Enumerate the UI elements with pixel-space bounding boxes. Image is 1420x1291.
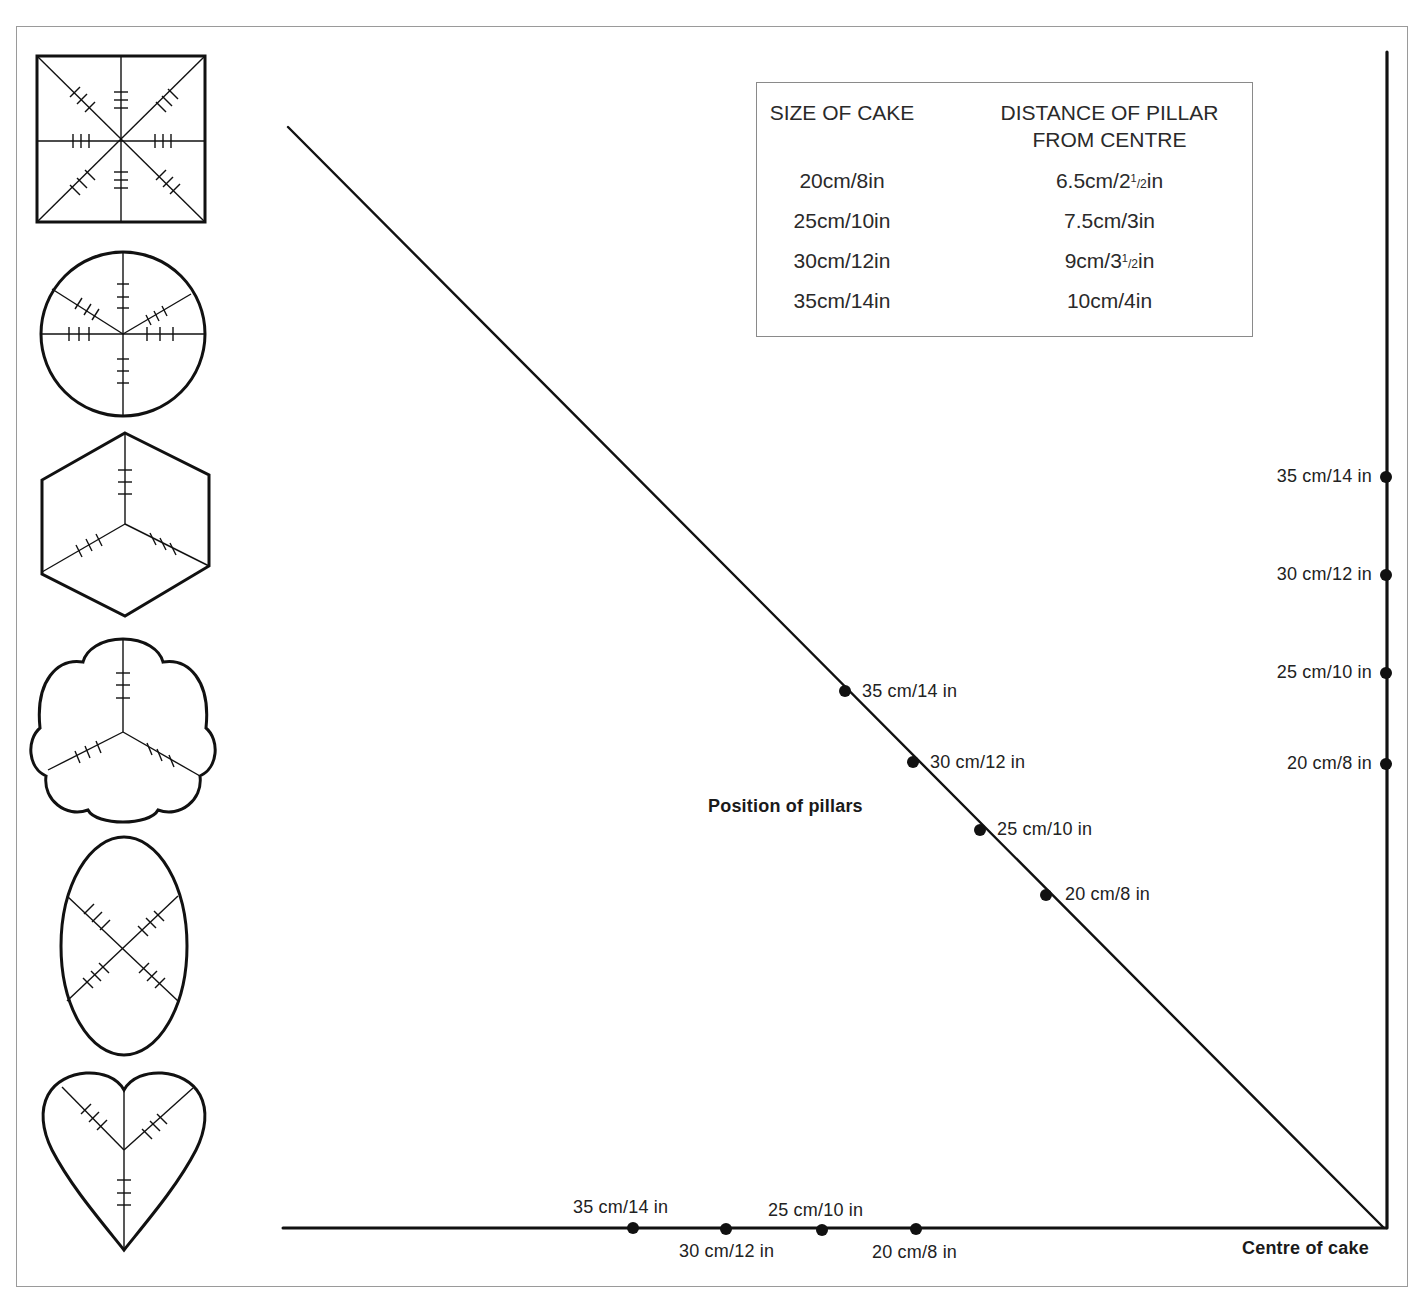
pillar-distance-table: SIZE OF CAKE DISTANCE OF PILLAR FROM CEN… (756, 82, 1253, 337)
table-cell-distance: 9cm/31/2in (977, 249, 1242, 273)
horizontal-point-30 (720, 1223, 732, 1235)
vertical-label-30: 30 cm/12 in (1230, 564, 1372, 585)
distance-main: 6.5cm/2 (1056, 169, 1131, 192)
diagonal-label-30: 30 cm/12 in (930, 752, 1025, 773)
horizontal-label-25: 25 cm/10 in (768, 1200, 863, 1221)
table-cell-size: 30cm/12in (757, 249, 927, 273)
horizontal-point-35 (627, 1222, 639, 1234)
diagonal-label-35: 35 cm/14 in (862, 681, 957, 702)
heart-cake-icon (43, 1073, 205, 1250)
diagonal-point-35 (839, 685, 851, 697)
fraction-half: 1/2 (1131, 177, 1147, 191)
round-cake-icon (41, 252, 205, 416)
horizontal-point-20 (910, 1223, 922, 1235)
fraction-half: 1/2 (1122, 257, 1138, 271)
table-header-size: SIZE OF CAKE (757, 99, 927, 126)
distance-main: 9cm/3 (1065, 249, 1122, 272)
table-header-distance-line2: FROM CENTRE (977, 126, 1242, 153)
vertical-point-30 (1380, 569, 1392, 581)
fraction-denominator: /2 (1128, 257, 1138, 271)
vertical-point-25 (1380, 667, 1392, 679)
vertical-label-20: 20 cm/8 in (1230, 753, 1372, 774)
centre-of-cake-label: Centre of cake (1242, 1238, 1369, 1259)
petal-cake-icon (31, 639, 215, 822)
diagonal-label-25: 25 cm/10 in (997, 819, 1092, 840)
table-cell-size: 20cm/8in (757, 169, 927, 193)
table-cell-distance: 10cm/4in (977, 289, 1242, 313)
position-of-pillars-title: Position of pillars (708, 796, 863, 817)
table-cell-size: 35cm/14in (757, 289, 927, 313)
vertical-label-35: 35 cm/14 in (1230, 466, 1372, 487)
horizontal-label-35: 35 cm/14 in (573, 1197, 668, 1218)
horizontal-label-20: 20 cm/8 in (872, 1242, 957, 1263)
square-cake-icon (37, 56, 205, 222)
hexagonal-cake-icon (42, 433, 209, 616)
diagonal-label-20: 20 cm/8 in (1065, 884, 1150, 905)
table-cell-distance: 6.5cm/21/2in (977, 169, 1242, 193)
distance-tail: in (1147, 169, 1163, 192)
table-cell-size: 25cm/10in (757, 209, 927, 233)
vertical-point-35 (1380, 471, 1392, 483)
vertical-label-25: 25 cm/10 in (1230, 662, 1372, 683)
diagonal-point-30 (907, 756, 919, 768)
diagonal-point-20 (1040, 889, 1052, 901)
horizontal-point-25 (816, 1224, 828, 1236)
table-cell-distance: 7.5cm/3in (977, 209, 1242, 233)
oval-cake-icon (61, 837, 187, 1055)
distance-tail: in (1138, 249, 1154, 272)
vertical-point-20 (1380, 758, 1392, 770)
table-header-distance-line1: DISTANCE OF PILLAR (977, 99, 1242, 126)
fraction-denominator: /2 (1137, 177, 1147, 191)
horizontal-label-30: 30 cm/12 in (679, 1241, 774, 1262)
diagonal-point-25 (974, 824, 986, 836)
